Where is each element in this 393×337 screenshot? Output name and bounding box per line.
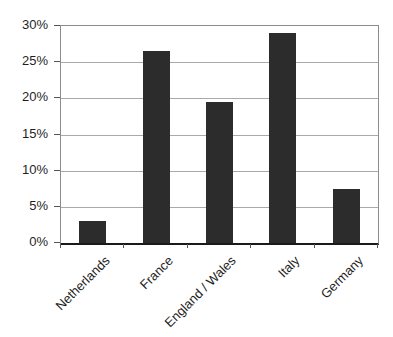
bar-netherlands: [79, 221, 106, 243]
x-axis-tick: [250, 244, 251, 248]
x-axis-tick: [60, 244, 61, 248]
y-axis-tick: [54, 134, 60, 135]
x-axis-tick: [123, 244, 124, 248]
x-axis-tick: [187, 244, 188, 248]
x-axis-tick: [377, 244, 378, 248]
gridline: [61, 62, 378, 63]
y-axis-tick: [54, 206, 60, 207]
y-tick-label: 0%: [29, 234, 48, 250]
bar-italy: [269, 33, 296, 243]
bar-chart: 0%5%10%15%20%25%30%NetherlandsFranceEngl…: [0, 0, 393, 337]
plot-area: [60, 25, 379, 245]
y-tick-label: 10%: [22, 162, 48, 178]
y-axis-tick: [54, 97, 60, 98]
x-category-label: Netherlands: [52, 253, 112, 313]
x-axis-tick: [314, 244, 315, 248]
y-tick-label: 5%: [29, 198, 48, 214]
y-axis-tick: [54, 61, 60, 62]
y-axis-tick: [54, 242, 60, 243]
gridline: [61, 98, 378, 99]
bar-england-wales: [206, 102, 233, 243]
bar-germany: [333, 189, 360, 243]
y-tick-label: 25%: [22, 53, 48, 69]
x-category-label: Italy: [275, 253, 302, 280]
y-tick-label: 15%: [22, 126, 48, 142]
bar-france: [143, 51, 170, 243]
x-category-label: Germany: [317, 253, 365, 301]
y-tick-label: 30%: [22, 17, 48, 33]
y-tick-label: 20%: [22, 89, 48, 105]
y-axis-tick: [54, 170, 60, 171]
y-axis-tick: [54, 25, 60, 26]
x-category-label: France: [136, 253, 175, 292]
